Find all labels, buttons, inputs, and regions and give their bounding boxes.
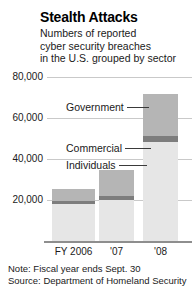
footer-note: Note: Fiscal year ends Sept. 30	[8, 263, 194, 275]
bar-segment-individuals-2006	[52, 204, 95, 241]
bar-segment-commercial-2006	[52, 201, 95, 204]
bar-segment-government-2007	[99, 170, 134, 197]
ytick-label-40000: 40,000	[0, 154, 43, 164]
chart-footer: Note: Fiscal year ends Sept. 30 Source: …	[8, 263, 194, 286]
page-title: Stealth Attacks	[40, 9, 190, 25]
bar-fy-2007	[99, 170, 134, 241]
annotation-government-label: Government	[66, 101, 124, 113]
footer-source: Source: Department of Homeland Security	[8, 275, 194, 287]
bar-segment-individuals-2007	[99, 200, 134, 241]
xtick-label-fy-2006: FY 2006	[47, 246, 100, 258]
annotation-individuals-label: Individuals	[66, 159, 116, 171]
leader-line-individuals	[119, 165, 147, 166]
bar-segment-government-2006	[52, 189, 95, 201]
annotation-government: Government	[66, 101, 149, 113]
ytick-label-20000: 20,000	[0, 195, 43, 205]
annotation-individuals: Individuals	[66, 159, 147, 171]
bar-segment-commercial-2007	[99, 196, 134, 200]
chart-subtitle: Numbers of reported cyber security breac…	[40, 27, 190, 65]
chart-header: Stealth Attacks Numbers of reported cybe…	[40, 9, 190, 65]
bar-fy-2008	[143, 94, 178, 241]
annotation-commercial: Commercial	[66, 142, 151, 154]
ytick-label-80000: 80,000	[0, 72, 43, 82]
stealth-attacks-chart: Stealth Attacks Numbers of reported cybe…	[0, 0, 196, 305]
xtick-label-2007: '07	[99, 246, 134, 258]
ytick-label-60000: 60,000	[0, 113, 43, 123]
gridline-80000	[47, 77, 192, 78]
bar-fy-2006	[52, 189, 95, 241]
leader-line-commercial	[125, 148, 151, 149]
annotation-commercial-label: Commercial	[66, 142, 122, 154]
bar-segment-individuals-2008	[143, 142, 178, 241]
leader-line-government	[127, 107, 149, 108]
xtick-label-2008: '08	[143, 246, 178, 258]
x-axis-line	[44, 241, 192, 243]
